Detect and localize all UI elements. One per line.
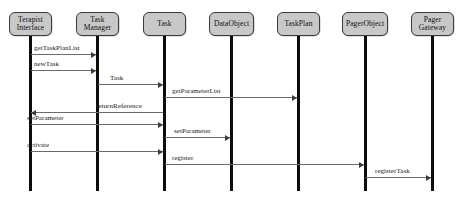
lifeline-label-line1: TaskPlan — [283, 20, 313, 28]
lifeline-head-data-object[interactable]: DataObject — [209, 12, 254, 36]
message-label-register-task: registerTask — [375, 167, 410, 175]
lifeline-head-terapist-interface[interactable]: TerapistInterface — [9, 12, 52, 36]
lifeline-label-line2: Interface — [16, 24, 46, 32]
message-label-register: register — [172, 154, 193, 162]
message-label-activate: activate — [27, 141, 49, 149]
message-label-set-parameter-data: setParameter — [174, 127, 211, 135]
message-label-get-parameter-list: getParameterList — [172, 87, 221, 95]
lifeline-head-task-manager[interactable]: TaskManager — [76, 12, 119, 36]
message-line-get-task-plan-list[interactable] — [31, 54, 96, 55]
lifeline-activation-task-manager — [96, 36, 99, 191]
message-label-new-task: newTask — [34, 60, 59, 68]
lifeline-label-line2: Gateway — [418, 24, 447, 32]
message-label-set-parameter-ui: setParameter — [27, 114, 64, 122]
message-label-task-create: Task — [110, 74, 123, 82]
lifeline-head-task[interactable]: Task — [143, 12, 186, 36]
message-label-get-task-plan-list: getTaskPlanList — [34, 44, 80, 52]
message-arrowhead-new-task — [91, 68, 96, 74]
message-arrowhead-set-parameter-data — [225, 135, 230, 141]
message-arrowhead-activate — [158, 149, 163, 155]
message-line-register[interactable] — [165, 164, 364, 165]
lifeline-head-task-plan[interactable]: TaskPlan — [277, 12, 320, 36]
message-line-register-task[interactable] — [366, 177, 431, 178]
lifeline-activation-pager-gateway — [431, 36, 434, 191]
lifeline-label-line1: PagerObject — [345, 20, 385, 28]
message-arrowhead-register — [359, 162, 364, 168]
lifeline-head-pager-gateway[interactable]: PagerGateway — [411, 12, 454, 36]
message-line-return-reference[interactable] — [31, 112, 163, 113]
lifeline-label-line2: Manager — [83, 24, 112, 32]
message-line-activate[interactable] — [31, 151, 163, 152]
message-line-task-create[interactable] — [98, 84, 163, 85]
message-arrowhead-task-create — [158, 82, 163, 88]
lifeline-activation-task-plan — [297, 36, 300, 191]
message-line-set-parameter-data[interactable] — [165, 137, 230, 138]
message-line-new-task[interactable] — [31, 70, 96, 71]
lifeline-label-line1: Task — [156, 20, 172, 28]
message-label-return-reference: returnReference — [96, 102, 142, 110]
message-arrowhead-get-task-plan-list — [91, 52, 96, 58]
message-arrowhead-set-parameter-ui — [158, 122, 163, 128]
lifeline-activation-task — [163, 36, 166, 191]
lifeline-head-pager-object[interactable]: PagerObject — [342, 12, 388, 36]
lifeline-activation-data-object — [230, 36, 233, 191]
lifeline-activation-pager-object — [364, 36, 367, 191]
message-arrowhead-get-parameter-list — [292, 95, 297, 101]
message-arrowhead-register-task — [426, 175, 431, 181]
sequence-diagram-canvas: TerapistInterfaceTaskManagerTaskDataObje… — [0, 0, 465, 201]
message-line-get-parameter-list[interactable] — [165, 97, 297, 98]
message-line-set-parameter-ui[interactable] — [31, 124, 163, 125]
lifeline-label-line1: DataObject — [213, 20, 250, 28]
